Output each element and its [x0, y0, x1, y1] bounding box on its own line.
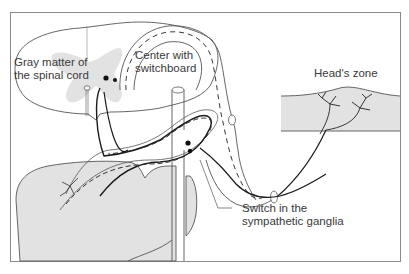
ganglion-top	[229, 115, 236, 125]
label-heads-zone: Head's zone	[314, 67, 378, 80]
label-center-switchboard: Center with switchboard	[135, 49, 196, 75]
neuron-body-1	[103, 75, 108, 80]
neuron-body-2	[113, 78, 117, 82]
ganglion-neuron-1	[185, 140, 190, 145]
label-gray-matter-line2: the spinal cord	[14, 69, 89, 82]
label-gray-matter: Gray matter of the spinal cord	[14, 56, 89, 82]
label-switch-line1: Switch in the	[242, 202, 344, 215]
label-gray-matter-line1: Gray matter of	[14, 56, 89, 69]
ganglion-neuron-2	[188, 149, 192, 153]
sympathetic-trunk-top	[172, 87, 184, 93]
referred-pain-diagram	[0, 0, 409, 274]
label-center-line2: switchboard	[135, 62, 196, 75]
central-canal	[84, 86, 90, 90]
visceral-organ-right-lobe	[186, 176, 197, 236]
skin-nerve-trunk	[278, 130, 326, 196]
visceral-organ	[16, 161, 176, 261]
label-switch-ganglia: Switch in the sympathetic ganglia	[242, 202, 344, 228]
spinal-nerve-outer	[206, 160, 272, 207]
label-center-line1: Center with	[135, 49, 196, 62]
label-switch-line2: sympathetic ganglia	[242, 215, 344, 228]
label-heads-zone-line1: Head's zone	[314, 67, 378, 80]
